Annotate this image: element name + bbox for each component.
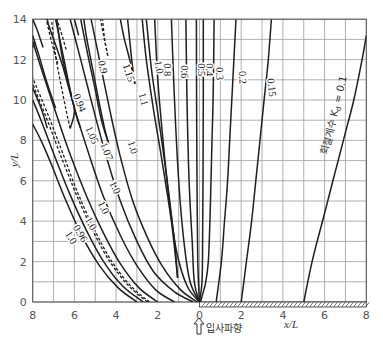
curve-label: 0.5 — [196, 63, 207, 76]
curve-kd-top1 — [33, 88, 48, 128]
incident-wave-indicator: 입사파향 — [194, 318, 242, 334]
curve-kd-0.1 — [304, 35, 367, 302]
curve-kd-0.96 — [33, 78, 150, 302]
curve-label: 0.9 — [96, 59, 109, 74]
grid — [33, 19, 367, 302]
x-tick-label: 6 — [321, 309, 328, 322]
x-tick-label: 8 — [363, 309, 370, 322]
x-tick-label: 2 — [154, 309, 161, 322]
y-axis-title: y/L — [8, 153, 20, 168]
curve-label: 1.1 — [136, 91, 150, 107]
y-tick-label: 10 — [13, 94, 27, 107]
curve-kd-0.9b — [103, 19, 108, 55]
curve-label: 1.0 — [126, 139, 141, 155]
curve-labels: 회절계수 Kd = 0.10.150.150.20.20.30.30.40.40… — [63, 59, 351, 246]
curve-kd-top6 — [74, 19, 78, 35]
x-tick-label: 6 — [71, 309, 78, 322]
curve-label: 1.0 — [96, 199, 112, 216]
curve-label: 0.2 — [237, 71, 249, 85]
x-tick-label: 2 — [238, 309, 245, 322]
y-tick-label: 4 — [20, 215, 27, 228]
diffraction-diagram: 회절계수 Kd = 0.10.150.150.20.20.30.30.40.40… — [0, 0, 383, 343]
curve-label: 0.15 — [265, 78, 278, 97]
y-tick-label: 12 — [13, 54, 27, 67]
y-tick-label: 2 — [20, 256, 27, 269]
x-tick-label: 4 — [113, 309, 120, 322]
y-tick-label: 14 — [13, 13, 27, 26]
curve-label: 1.0 — [107, 179, 123, 196]
x-tick-label: 8 — [29, 309, 36, 322]
y-tick-label: 8 — [20, 134, 27, 147]
x-axis-title: x/L — [283, 318, 298, 330]
curve-label: 0.6 — [179, 65, 190, 78]
breakwater — [200, 302, 370, 307]
curve-label: 1.0 — [153, 60, 166, 75]
curve-kd-top4 — [46, 19, 57, 63]
y-tick-label: 0 — [20, 296, 27, 309]
y-tick-label: 6 — [20, 175, 27, 188]
curve-label: 1.07 — [98, 141, 115, 162]
incident-wave-label: 입사파향 — [206, 322, 242, 334]
